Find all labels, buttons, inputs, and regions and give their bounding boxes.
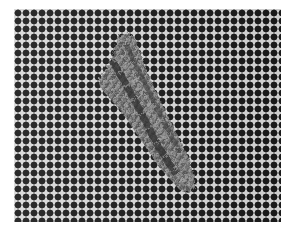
stitch-band	[0, 0, 294, 232]
needlepoint-photo	[0, 0, 294, 232]
